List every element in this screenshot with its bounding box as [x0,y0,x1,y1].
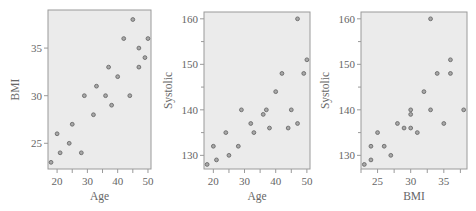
y-tick-label: 160 [339,13,356,25]
scatter-panel-age-bmi: 25303520304050AgeBMI [0,0,160,211]
y-axis-title: Systolic [162,72,175,109]
data-point [131,18,135,22]
data-point [104,94,108,98]
data-point [396,122,400,126]
data-point [289,108,293,112]
data-point [296,122,300,126]
data-point [261,112,265,116]
data-point [236,144,240,148]
data-point [211,144,215,148]
data-point [252,131,256,135]
data-point [362,163,366,167]
y-tick-label: 160 [182,13,199,25]
data-point [70,122,74,126]
data-point [128,94,132,98]
plot-area [48,10,151,169]
data-point [227,153,231,157]
y-tick-label: 35 [31,42,43,54]
x-tick-label: 30 [82,175,94,187]
data-point [376,131,380,135]
x-tick-label: 30 [239,175,251,187]
data-point [116,75,120,79]
data-point [58,151,62,155]
data-point [409,112,413,116]
y-axis-title: Systolic [319,72,332,109]
data-point [409,126,413,130]
data-point [224,131,228,135]
y-tick-label: 25 [31,137,43,149]
data-point [215,158,219,162]
data-point [369,144,373,148]
data-point [249,122,253,126]
data-point [296,17,300,21]
x-tick-label: 40 [112,175,124,187]
data-point [268,126,272,130]
data-point [422,90,426,94]
scatter-panel-bmi-systolic: 130140150160253035BMISystolic [315,0,475,211]
data-point [449,58,453,62]
data-point [137,46,141,50]
data-point [137,65,141,69]
data-point [286,126,290,130]
data-point [409,108,413,112]
scatter-panel-age-systolic: 13014015016020304050AgeSystolic [158,0,318,211]
data-point [449,72,453,76]
y-tick-label: 30 [31,90,43,102]
y-tick-label: 130 [182,149,199,161]
data-point [110,103,114,107]
data-point [302,72,306,76]
plot-area [361,12,467,169]
data-point [280,72,284,76]
x-axis-title: Age [90,190,109,203]
x-tick-label: 20 [208,175,220,187]
data-point [92,113,96,117]
data-point [82,94,86,98]
data-point [389,153,393,157]
y-tick-label: 150 [182,58,199,70]
data-point [240,108,244,112]
data-point [79,151,83,155]
data-point [435,72,439,76]
y-tick-label: 140 [339,104,356,116]
y-axis-title: BMI [9,78,21,100]
y-tick-label: 140 [182,104,199,116]
x-tick-label: 50 [142,175,154,187]
data-point [402,126,406,130]
data-point [305,58,309,62]
data-point [264,108,268,112]
x-tick-label: 40 [270,175,282,187]
data-point [122,37,126,41]
data-point [429,108,433,112]
data-point [143,56,147,60]
data-point [442,122,446,126]
data-point [67,141,71,145]
x-tick-label: 35 [438,175,450,187]
data-point [107,65,111,69]
data-point [49,160,53,164]
plot-area [204,12,310,169]
y-tick-label: 150 [339,58,356,70]
x-axis-title: Age [247,190,266,203]
x-tick-label: 50 [301,175,313,187]
data-point [274,90,278,94]
data-point [415,131,419,135]
x-tick-label: 25 [372,175,384,187]
y-tick-label: 130 [339,149,356,161]
data-point [369,158,373,162]
x-tick-label: 30 [405,175,417,187]
data-point [55,132,59,136]
data-point [462,108,466,112]
x-tick-label: 20 [52,175,64,187]
data-point [146,37,150,41]
data-point [95,84,99,88]
x-axis-title: BMI [403,190,425,202]
data-point [382,144,386,148]
data-point [429,17,433,21]
data-point [205,163,209,167]
